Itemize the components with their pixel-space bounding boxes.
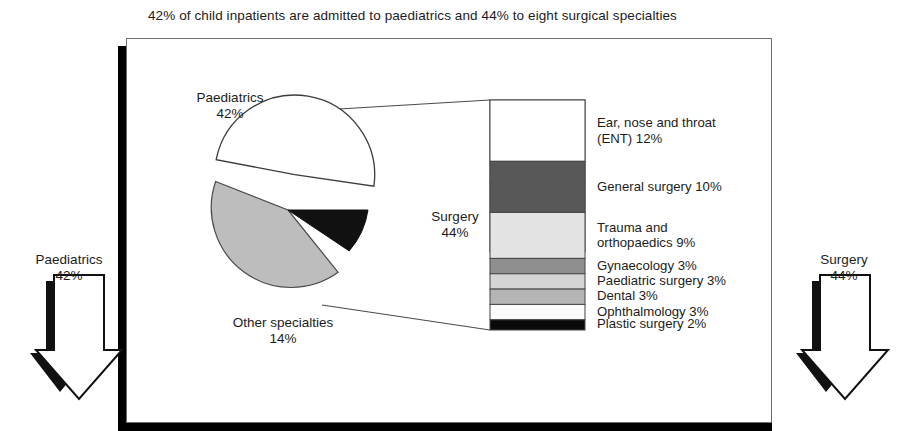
- pie-label-other-specialties: Other specialties 14%: [198, 315, 368, 347]
- legend-item-line2: orthopaedics 9%: [597, 235, 695, 251]
- arrow-left-label-value: 42%: [4, 268, 134, 284]
- arrow-right-label-name: Surgery: [784, 252, 904, 268]
- legend-item-line1: General surgery 10%: [597, 179, 722, 195]
- arrow-right-label-value: 44%: [784, 268, 904, 284]
- pie-label-other-specialties-value: 14%: [198, 331, 368, 347]
- legend-item-line1: Dental 3%: [597, 288, 658, 304]
- legend-item-line1: Trauma and: [597, 220, 695, 236]
- legend-item: Dental 3%: [597, 288, 658, 304]
- bar-segment: [490, 161, 585, 212]
- pie-label-surgery: Surgery 44%: [400, 209, 510, 241]
- pie-label-surgery-value: 44%: [400, 225, 510, 241]
- legend-item: General surgery 10%: [597, 179, 722, 195]
- legend-item-line1: Paediatric surgery 3%: [597, 273, 726, 289]
- arrow-right-surgery: [796, 275, 888, 399]
- arrow-left-label-name: Paediatrics: [4, 252, 134, 268]
- arrow-left-paediatrics: [30, 275, 122, 399]
- legend-item-line1: Plastic surgery 2%: [597, 316, 706, 332]
- legend-item: Trauma andorthopaedics 9%: [597, 220, 695, 251]
- bar-segment: [490, 274, 585, 289]
- legend-item: Plastic surgery 2%: [597, 316, 706, 332]
- pie-label-surgery-name: Surgery: [400, 209, 510, 225]
- bar-segment: [490, 258, 585, 273]
- bar-segment: [490, 304, 585, 319]
- legend-item: Ear, nose and throat(ENT) 12%: [597, 115, 716, 146]
- bar-segment: [490, 289, 585, 304]
- legend-item-line1: Gynaecology 3%: [597, 258, 697, 274]
- legend-item: Gynaecology 3%: [597, 258, 697, 274]
- pie-label-other-specialties-name: Other specialties: [198, 315, 368, 331]
- bar-segment: [490, 100, 585, 161]
- pie-label-paediatrics-name: Paediatrics: [170, 90, 290, 106]
- legend-item-line2: (ENT) 12%: [597, 131, 716, 147]
- legend-item-line1: Ear, nose and throat: [597, 115, 716, 131]
- pie-label-paediatrics-value: 42%: [170, 106, 290, 122]
- arrow-left-label: Paediatrics 42%: [4, 252, 134, 284]
- legend-item: Paediatric surgery 3%: [597, 273, 726, 289]
- pie-slice-paediatrics: [187, 157, 339, 320]
- bar-segment: [490, 320, 585, 330]
- pie-label-paediatrics: Paediatrics 42%: [170, 90, 290, 122]
- arrow-right-label: Surgery 44%: [784, 252, 904, 284]
